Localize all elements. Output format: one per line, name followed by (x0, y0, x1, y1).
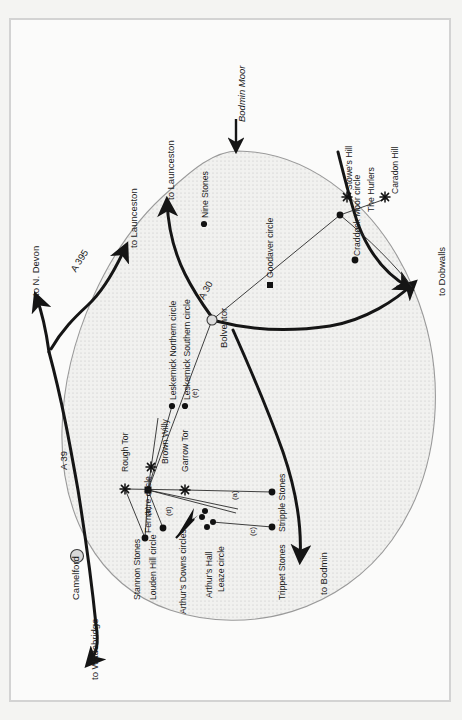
site-label-leskernick-southern: Leskernick Southern circle (182, 299, 192, 400)
sightline-label-d: (d) (164, 506, 173, 516)
marker-rough-tor (120, 484, 130, 494)
marker-leaze-circle (210, 519, 216, 525)
town-label-camelford: Camelford (70, 556, 81, 600)
site-label-goodaver-circle: Goodaver circle (265, 218, 275, 278)
site-label-arthurs-downs-circles: Arthur's Downs circles (178, 529, 188, 614)
bodmin-moor-area (62, 151, 435, 620)
marker-the-hurlers (337, 212, 344, 219)
site-label-craddock-moor-circle: Craddock Moor circle (352, 175, 362, 256)
marker-louden-hill-circle (160, 525, 167, 532)
marker-trippet-stones (269, 524, 276, 531)
road-a39-to-n-devon-arrow (36, 296, 49, 352)
sightline-label-a: (a) (230, 490, 239, 500)
marker-stowes-hill (342, 192, 352, 202)
site-label-the-hurlers: The Hurlers (366, 167, 376, 212)
map-canvas: Bodmin Moor to N. Devon to Launceston to… (0, 0, 462, 720)
marker-goodaver-circle (267, 282, 273, 288)
marker-arthurs-downs-b (204, 524, 210, 530)
destination-to-dobwalls: to Dobwalls (436, 247, 447, 296)
town-label-bolventor: Bolventor (218, 308, 229, 348)
destination-to-wadebridge: to Wadebridge (89, 619, 100, 680)
tor-label-garrow-tor: Garrow Tor (180, 430, 190, 472)
site-label-louden-hill-circle: Louden Hill circle (148, 535, 158, 600)
destination-to-launceston-a395: to Launceston (128, 188, 139, 248)
site-label-nine-stones: Nine Stones (200, 171, 210, 218)
site-label-trippet-stones: Trippet Stones (277, 544, 287, 600)
sightline-label-c: (c) (248, 527, 257, 536)
marker-stripple-stones (269, 489, 276, 496)
tor-label-rough-tor: Rough Tor (120, 433, 130, 473)
marker-leskernick-southern (182, 403, 188, 409)
marker-brown-willy (146, 462, 156, 472)
marker-arthurs-hall (202, 508, 208, 514)
site-label-stannon-stones: Stannon Stones (132, 539, 142, 600)
site-label-arthurs-hall: Arthur's Hall (204, 551, 214, 598)
marker-bolventor (207, 315, 217, 325)
moor-title-label: Bodmin Moor (236, 66, 247, 123)
map-vector-layer (0, 0, 462, 720)
site-label-fernacre-circle: Fernacre circle (143, 476, 153, 533)
sightline-label-e: (e) (190, 388, 199, 398)
marker-garrow-tor (180, 485, 190, 495)
tor-label-brown-willy: Brown Willy (160, 419, 170, 464)
road-label-a39: A 39 (58, 451, 69, 470)
destination-to-bodmin: to Bodmin (318, 552, 329, 595)
marker-caradon-hill (380, 192, 390, 202)
marker-arthurs-downs-a (199, 514, 205, 520)
site-label-leskernick-northern: Leskernick Northern circle (168, 301, 178, 400)
sightline-label-b: (b) (143, 506, 152, 516)
marker-leskernick-northern (169, 403, 175, 409)
marker-craddock-moor-circle (352, 257, 359, 264)
marker-nine-stones (201, 221, 207, 227)
site-label-stripple-stones: Stripple Stones (277, 474, 287, 532)
tor-label-caradon-hill: Caradon Hill (390, 147, 400, 194)
site-label-leaze-circle: Leaze circle (216, 546, 226, 592)
destination-to-launceston-a30: to Launceston (165, 140, 176, 200)
destination-to-n-devon: to N. Devon (30, 246, 41, 296)
map-page: Bodmin Moor to N. Devon to Launceston to… (0, 0, 462, 720)
